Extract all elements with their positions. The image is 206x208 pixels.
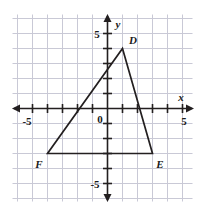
y-axis-tick-label-neg5: -5 xyxy=(90,178,100,190)
y-axis-tick-label-pos5: 5 xyxy=(94,28,100,40)
coordinate-plane-figure: -5 5 5 -5 0 y x D E F xyxy=(0,0,206,208)
vertex-label-e: E xyxy=(155,158,163,170)
coordinate-plot: -5 5 5 -5 0 y x D E F xyxy=(0,0,206,208)
x-axis-tick-label-pos5: 5 xyxy=(181,115,187,127)
plot-background xyxy=(0,0,206,208)
vertex-label-f: F xyxy=(34,158,43,170)
origin-label: 0 xyxy=(97,113,103,125)
x-axis-label: x xyxy=(177,91,184,103)
x-axis-tick-label-neg5: -5 xyxy=(22,115,32,127)
y-axis-label: y xyxy=(114,18,121,30)
vertex-label-d: D xyxy=(128,34,137,46)
